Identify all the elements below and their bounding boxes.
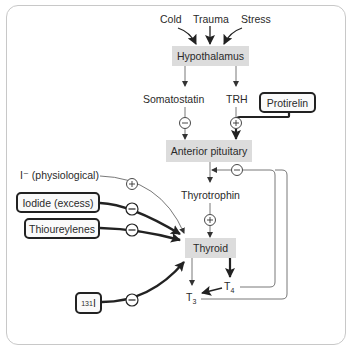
trh-label: TRH — [226, 94, 248, 105]
stimulus-stress: Stress — [241, 14, 271, 25]
iodide-physiological-label: I⁻ (physiological) — [20, 170, 99, 181]
thioureylenes-drug-box: Thioureylenes — [24, 218, 100, 239]
stimulus-cold: Cold — [160, 14, 182, 25]
anterior-pituitary-node: Anterior pituitary — [166, 140, 252, 162]
thyrotrophin-label: Thyrotrophin — [181, 190, 240, 201]
iodide-excess-drug-box: Iodide (excess) — [16, 192, 100, 213]
stress-arrow — [224, 28, 242, 44]
t3-label: T3 — [186, 292, 196, 305]
protirelin-drug-box: Protirelin — [259, 92, 316, 113]
cold-arrow — [178, 28, 196, 44]
somatostatin-label: Somatostatin — [143, 94, 204, 105]
stimulus-trauma: Trauma — [193, 14, 229, 25]
hypothalamus-node: Hypothalamus — [172, 46, 249, 66]
t4-label: T4 — [224, 281, 234, 294]
radioiodine-drug-box: 131I — [75, 292, 102, 314]
thyroid-node: Thyroid — [185, 238, 236, 258]
